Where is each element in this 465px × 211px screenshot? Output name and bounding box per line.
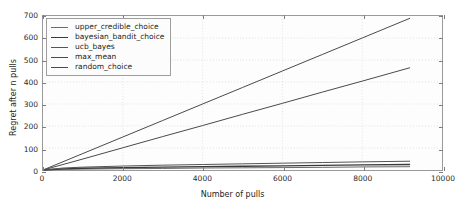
x-tick-mark <box>123 167 124 171</box>
y-tick-mark <box>439 105 443 106</box>
y-tick-mark <box>42 172 46 173</box>
y-tick-mark <box>439 16 443 17</box>
y-tick-label: 100 <box>24 144 38 153</box>
legend: upper_credible_choicebayesian_bandit_cho… <box>46 18 171 76</box>
y-tick-mark <box>42 83 46 84</box>
legend-swatch-random_choice <box>51 67 68 68</box>
x-tick-mark <box>364 15 365 19</box>
y-tick-mark <box>42 150 46 151</box>
legend-item-upper_credible_choice[interactable]: upper_credible_choice <box>51 22 164 32</box>
legend-item-ucb_bayes[interactable]: ucb_bayes <box>51 42 164 52</box>
x-tick-label: 2000 <box>113 174 132 183</box>
x-tick-label: 10000 <box>431 174 455 183</box>
y-tick-mark <box>439 127 443 128</box>
legend-swatch-ucb_bayes <box>51 47 68 48</box>
x-tick-mark <box>444 167 445 171</box>
legend-item-max_mean[interactable]: max_mean <box>51 52 164 62</box>
x-tick-mark <box>444 15 445 19</box>
y-tick-label: 200 <box>24 122 38 131</box>
x-tick-mark <box>203 167 204 171</box>
y-tick-label: 300 <box>24 100 38 109</box>
x-axis-title: Number of pulls <box>0 190 465 199</box>
x-tick-mark <box>43 167 44 171</box>
y-tick-mark <box>42 105 46 106</box>
regret-chart-figure: 0200040006000800010000010020030040050060… <box>0 0 465 211</box>
series-line-max_mean <box>43 68 410 170</box>
x-tick-label: 4000 <box>193 174 212 183</box>
y-tick-label: 400 <box>24 77 38 86</box>
legend-label: max_mean <box>75 52 116 62</box>
legend-item-random_choice[interactable]: random_choice <box>51 62 164 72</box>
y-tick-label: 600 <box>24 33 38 42</box>
x-tick-label: 8000 <box>353 174 372 183</box>
y-tick-mark <box>439 172 443 173</box>
y-tick-mark <box>439 38 443 39</box>
legend-swatch-bayesian_bandit_choice <box>51 37 68 38</box>
x-tick-label: 6000 <box>273 174 292 183</box>
legend-swatch-upper_credible_choice <box>51 27 68 28</box>
legend-label: ucb_bayes <box>75 42 115 52</box>
legend-label: random_choice <box>75 62 132 72</box>
x-tick-label: 0 <box>40 174 45 183</box>
legend-label: upper_credible_choice <box>75 22 159 32</box>
y-tick-mark <box>42 16 46 17</box>
y-tick-mark <box>42 127 46 128</box>
legend-label: bayesian_bandit_choice <box>75 32 164 42</box>
y-tick-label: 0 <box>33 167 38 176</box>
legend-item-bayesian_bandit_choice[interactable]: bayesian_bandit_choice <box>51 32 164 42</box>
y-tick-mark <box>439 61 443 62</box>
y-tick-mark <box>439 150 443 151</box>
y-tick-label: 700 <box>24 11 38 20</box>
y-axis-title: Regret after n pulls <box>9 38 18 158</box>
x-tick-mark <box>203 15 204 19</box>
x-tick-mark <box>364 167 365 171</box>
y-tick-mark <box>439 83 443 84</box>
y-tick-label: 500 <box>24 55 38 64</box>
x-tick-mark <box>284 167 285 171</box>
legend-swatch-max_mean <box>51 57 68 58</box>
x-tick-mark <box>284 15 285 19</box>
